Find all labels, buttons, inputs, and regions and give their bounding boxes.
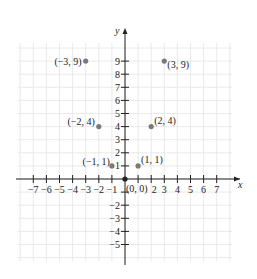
y-tick-label: 8 [115, 69, 120, 80]
data-point [149, 124, 154, 129]
y-tick-label: 6 [115, 95, 120, 106]
point-label: (−3, 9) [54, 56, 81, 68]
x-tick-label: 5 [188, 184, 193, 195]
point-label: (1, 1) [141, 154, 163, 166]
data-point [122, 176, 127, 181]
y-tick-label: 5 [115, 108, 120, 119]
data-point [83, 59, 88, 64]
y-tick-label: 3 [115, 134, 120, 145]
point-label: (3, 9) [167, 59, 189, 71]
x-tick-label: −6 [41, 184, 52, 195]
data-point [162, 59, 167, 64]
y-axis-arrow-icon [123, 28, 128, 34]
point-label: (−1, 1) [83, 156, 110, 168]
x-tick-label: −2 [93, 184, 104, 195]
y-tick-label: 4 [115, 121, 120, 132]
data-point [109, 163, 114, 168]
data-point [136, 163, 141, 168]
axes [16, 28, 240, 265]
point-label: (−2, 4) [67, 116, 94, 128]
x-tick-label: 3 [162, 184, 167, 195]
y-axis-label: y [114, 25, 120, 36]
x-axis-label: x [237, 179, 243, 190]
x-tick-label: 6 [201, 184, 206, 195]
x-tick-label: −5 [54, 184, 65, 195]
x-tick-label: −7 [28, 184, 39, 195]
y-tick-label: −3 [109, 213, 120, 224]
y-tick-label: 7 [115, 82, 120, 93]
x-tick-label: 7 [214, 184, 219, 195]
y-tick-label: 2 [115, 147, 120, 158]
x-tick-label: −1 [107, 184, 118, 195]
y-tick-label: 1 [115, 160, 120, 171]
x-tick-label: −3 [80, 184, 91, 195]
y-tick-label: −4 [109, 226, 120, 237]
y-tick-label: −2 [109, 200, 120, 211]
point-labels: (−3, 9)(3, 9)(−2, 4)(2, 4)(−1, 1)(1, 1)(… [54, 56, 189, 195]
scatter-chart: −7−6−5−4−3−2−1234567987654321−2−3−4−5 (−… [0, 0, 257, 279]
x-tick-label: 4 [175, 184, 180, 195]
data-point [96, 124, 101, 129]
x-tick-label: 2 [152, 184, 157, 195]
y-tick-label: −5 [109, 239, 120, 250]
x-tick-label: −4 [67, 184, 78, 195]
point-label: (0, 0) [126, 183, 148, 195]
y-tick-label: 9 [115, 56, 120, 67]
point-label: (2, 4) [154, 115, 176, 127]
